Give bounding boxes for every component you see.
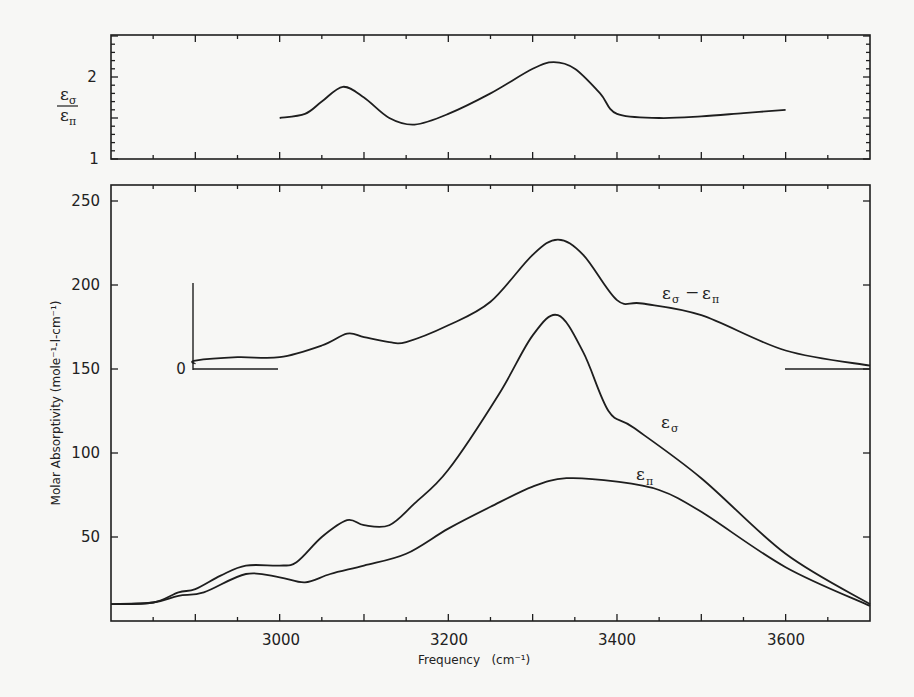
ratio-ylabel-numerator: ε xyxy=(60,84,69,104)
ratio-ytick-2: 2 xyxy=(87,68,97,86)
absorptivity-panel: 250 200 150 100 50 3000 3200 3400 3600 F… xyxy=(49,185,870,667)
ytick-250: 250 xyxy=(71,192,100,210)
sigma-label-a-sub: σ xyxy=(671,422,679,435)
diff-label-b-sub: π xyxy=(712,293,719,306)
ratio-curve xyxy=(280,62,786,124)
inset-zero-label: 0 xyxy=(176,360,186,378)
xtick-3400: 3400 xyxy=(598,631,636,649)
ratio-ylabel-denominator-sub: π xyxy=(69,115,76,128)
ratio-ytick-1: 1 xyxy=(89,150,99,168)
ytick-200: 200 xyxy=(71,276,100,294)
diff-label-a: ε xyxy=(662,283,671,303)
difference-inset-axes xyxy=(193,283,870,370)
diff-label-op: − xyxy=(685,282,699,302)
xtick-3000: 3000 xyxy=(262,631,300,649)
ytick-150: 150 xyxy=(71,360,100,378)
pi-curve xyxy=(111,478,870,606)
difference-curve xyxy=(192,240,870,366)
xtick-3600: 3600 xyxy=(767,631,805,649)
xtick-3200: 3200 xyxy=(430,631,468,649)
ytick-100: 100 xyxy=(71,444,100,462)
diff-label-b: ε xyxy=(702,283,711,303)
pi-label-a: ε xyxy=(636,464,645,484)
ratio-ylabel: ε σ ε π xyxy=(57,84,78,128)
absorptivity-panel-ticks xyxy=(153,185,828,621)
spectrum-figure: 2 1 ε σ ε π 250 200 150 100 50 3000 3200… xyxy=(0,0,914,697)
absorptivity-panel-frame xyxy=(111,185,870,621)
pi-label-a-sub: π xyxy=(646,475,653,488)
x-axis-title: Frequency (cm⁻¹) xyxy=(418,653,530,667)
ratio-panel-ticks xyxy=(111,35,828,159)
ratio-panel-right-ticks xyxy=(863,36,870,159)
ratio-ylabel-numerator-sub: σ xyxy=(69,94,77,107)
difference-curve-label: ε σ − ε π xyxy=(662,282,719,306)
ytick-50: 50 xyxy=(81,528,100,546)
y-axis-title: Molar Absorptivity (mole⁻¹-l-cm⁻¹) xyxy=(49,301,63,506)
sigma-curve-label: ε σ xyxy=(661,412,679,435)
diff-label-a-sub: σ xyxy=(672,293,680,306)
ratio-panel: 2 1 ε σ ε π xyxy=(57,35,870,168)
sigma-label-a: ε xyxy=(661,412,670,432)
ratio-ylabel-denominator: ε xyxy=(60,105,69,125)
ratio-panel-frame xyxy=(111,35,870,159)
